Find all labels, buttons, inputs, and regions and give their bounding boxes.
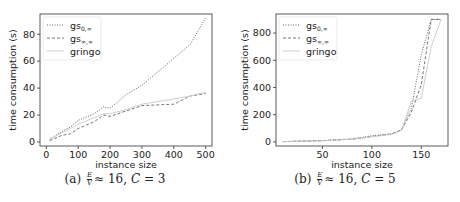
y-tick-label: 60	[23, 55, 35, 66]
y-tick-label: 20	[23, 109, 35, 120]
y-tick-label: 0	[29, 136, 35, 147]
y-tick-label: 80	[23, 29, 35, 40]
x-tick-label: 50	[316, 149, 328, 160]
chart-panel-b: 501001500200400600800instance sizetime c…	[230, 0, 460, 202]
x-axis-label: instance size	[95, 159, 157, 170]
x-tick-label: 100	[69, 149, 87, 160]
series-line	[50, 94, 206, 141]
fraction: EV	[317, 172, 322, 187]
y-tick-label: 200	[253, 109, 271, 120]
y-tick-label: 400	[253, 82, 271, 93]
x-axis-label: instance size	[331, 159, 393, 170]
x-tick-label: 500	[197, 149, 215, 160]
y-tick-label: 800	[253, 27, 271, 38]
x-tick-label: 0	[43, 149, 49, 160]
y-tick-label: 0	[265, 136, 271, 147]
line-chart-a: 0100200300400500020406080instance sizeti…	[0, 0, 230, 172]
legend: gs0,∞gs∞,∞gringo	[43, 17, 101, 60]
caption-b: (b) EV≈ 16, C = 5	[230, 172, 460, 187]
y-axis-label: time consumption (s)	[239, 29, 250, 130]
y-axis-label: time consumption (s)	[7, 29, 18, 130]
y-tick-label: 40	[23, 82, 35, 93]
legend-entry: gringo	[306, 46, 337, 57]
fraction: EV	[87, 172, 92, 187]
legend: gs0,∞gs∞,∞gringo	[279, 17, 337, 60]
caption-label: (a)	[65, 172, 82, 186]
legend-entry: gringo	[70, 46, 101, 57]
caption-a: (a) EV≈ 16, C = 3	[0, 172, 230, 187]
x-tick-label: 400	[165, 149, 183, 160]
x-tick-label: 150	[412, 149, 430, 160]
y-tick-label: 600	[253, 55, 271, 66]
line-chart-b: 501001500200400600800instance sizetime c…	[230, 0, 460, 172]
caption-label: (b)	[294, 172, 311, 186]
chart-panel-a: 0100200300400500020406080instance sizeti…	[0, 0, 230, 202]
